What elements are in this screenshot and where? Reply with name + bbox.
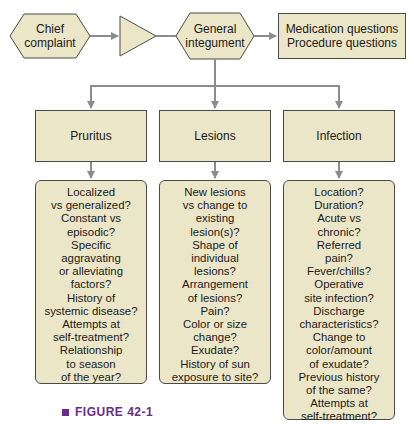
question-line: of the year? xyxy=(44,371,137,384)
question-line: Localized xyxy=(44,186,137,199)
merge-triangle xyxy=(120,16,156,56)
question-line: Relationship xyxy=(44,344,137,357)
question-line: Operative xyxy=(298,278,379,291)
question-line: exposure to site? xyxy=(172,371,259,384)
figure-caption: FIGURE 42-1 xyxy=(62,405,153,419)
medication-procedure-questions-box: Medication questions Procedure questions xyxy=(278,13,406,59)
caption-square-icon xyxy=(62,409,69,416)
question-line: pain? xyxy=(298,252,379,265)
question-line: to season xyxy=(44,358,137,371)
question-line: Specific xyxy=(44,239,137,252)
question-line: systemic disease? xyxy=(44,305,137,318)
category-pruritus: Pruritus xyxy=(35,110,147,162)
question-line: Fever/chills? xyxy=(298,265,379,278)
chief-complaint-node: Chief complaint xyxy=(10,14,90,58)
procedure-questions-label: Procedure questions xyxy=(286,36,399,50)
question-line: individual xyxy=(172,252,259,265)
question-line: or alleviating xyxy=(44,265,137,278)
question-line: History of xyxy=(44,292,137,305)
question-line: existing xyxy=(172,212,259,225)
caption-text: FIGURE 42-1 xyxy=(75,405,153,419)
lesions-questions: New lesions vs change to existing lesion… xyxy=(159,180,271,384)
question-line: episodic? xyxy=(44,226,137,239)
category-label: Pruritus xyxy=(70,129,111,143)
infection-questions: Location? Duration? Acute vs chronic? Re… xyxy=(283,180,395,420)
question-line: Exudate? xyxy=(172,344,259,357)
question-line: of the same? xyxy=(298,384,379,397)
pruritus-questions: Localized vs generalized? Constant vs ep… xyxy=(35,180,147,384)
question-line: Previous history xyxy=(298,371,379,384)
question-line: vs generalized? xyxy=(44,199,137,212)
question-line: site infection? xyxy=(298,292,379,305)
question-line: lesion(s)? xyxy=(172,226,259,239)
question-line: Arrangement xyxy=(172,278,259,291)
question-line: self-treatment? xyxy=(298,410,379,423)
question-line: New lesions xyxy=(172,186,259,199)
question-line: chronic? xyxy=(298,226,379,239)
question-line: lesions? xyxy=(172,265,259,278)
question-line: Acute vs xyxy=(298,212,379,225)
question-line: Referred xyxy=(298,239,379,252)
question-line: Pain? xyxy=(172,305,259,318)
category-infection: Infection xyxy=(283,110,395,162)
question-line: change? xyxy=(172,331,259,344)
question-line: Attempts at xyxy=(44,318,137,331)
question-line: factors? xyxy=(44,278,137,291)
question-line: History of sun xyxy=(172,358,259,371)
question-line: vs change to xyxy=(172,199,259,212)
category-lesions: Lesions xyxy=(159,110,271,162)
question-line: Color or size xyxy=(172,318,259,331)
question-line: Change to xyxy=(298,331,379,344)
question-line: aggravating xyxy=(44,252,137,265)
question-line: Shape of xyxy=(172,239,259,252)
chief-complaint-line-1: Chief xyxy=(24,22,75,36)
question-line: of lesions? xyxy=(172,292,259,305)
question-line: Location? xyxy=(298,186,379,199)
question-line: self-treatment? xyxy=(44,331,137,344)
question-line: Discharge xyxy=(298,305,379,318)
question-line: characteristics? xyxy=(298,318,379,331)
question-line: of exudate? xyxy=(298,358,379,371)
category-label: Infection xyxy=(316,129,361,143)
question-line: Attempts at xyxy=(298,397,379,410)
question-line: Duration? xyxy=(298,199,379,212)
question-line: Constant vs xyxy=(44,212,137,225)
medication-questions-label: Medication questions xyxy=(286,22,399,36)
general-integument-line-2: integument xyxy=(185,36,244,50)
question-line: color/amount xyxy=(298,344,379,357)
category-label: Lesions xyxy=(194,129,235,143)
chief-complaint-line-2: complaint xyxy=(24,36,75,50)
general-integument-node: General integument xyxy=(176,13,254,59)
general-integument-line-1: General xyxy=(185,22,244,36)
